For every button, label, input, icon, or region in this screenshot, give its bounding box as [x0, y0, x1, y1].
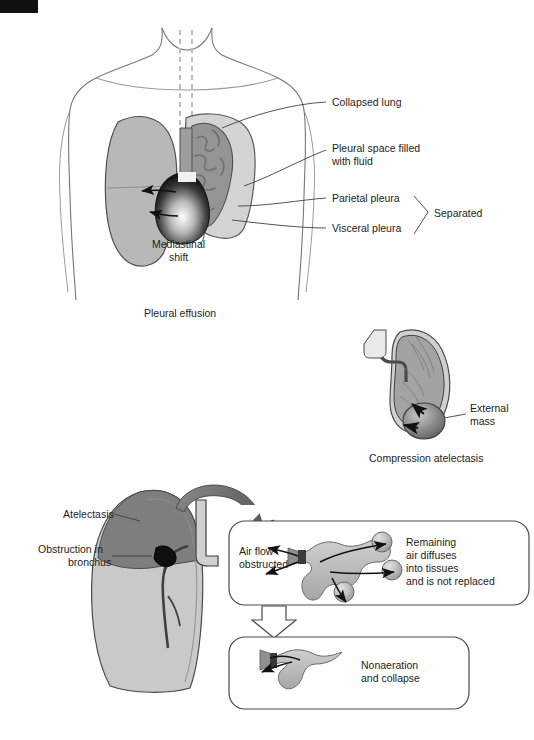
carina-highlight	[178, 172, 196, 182]
heart-mediastinum	[155, 173, 209, 244]
label-external-mass-line2: mass	[470, 415, 495, 428]
label-atelectasis: Atelectasis	[63, 508, 114, 521]
illustration-page: Collapsed lung Pleural space filled with…	[0, 0, 534, 740]
neck-base	[162, 28, 212, 50]
callout-remaining-line4: and is not replaced	[406, 575, 495, 588]
label-pleural-space-line1: Pleural space filled	[332, 142, 420, 155]
callout-remaining-line3: into tissues	[406, 562, 459, 575]
main-bronchus-stub	[180, 128, 192, 176]
label-pleural-space-line2: with fluid	[332, 155, 373, 168]
callout-airflow-line2: obstructed	[239, 558, 288, 571]
label-obstruction-line1: Obstruction in	[38, 543, 103, 556]
external-mass	[403, 403, 445, 439]
nonaeration-callout-box	[229, 637, 469, 709]
diagram-canvas	[0, 0, 534, 740]
label-external-mass-line1: External	[470, 402, 509, 415]
trachea-dashed	[180, 30, 192, 130]
label-obstruction-line2: bronchus	[68, 556, 111, 569]
callout-nonaeration-line2: and collapse	[361, 672, 420, 685]
callout-remaining-line1: Remaining	[406, 536, 456, 549]
callout-nonaeration-line1: Nonaeration	[361, 659, 418, 672]
label-mediastinal-shift-line2: shift	[169, 251, 188, 264]
caption-compression-atelectasis: Compression atelectasis	[369, 452, 483, 465]
corner-black-mark	[0, 0, 38, 13]
compression-atelectasis-illustration	[364, 330, 466, 439]
obstruction-atelectasis-illustration	[92, 485, 529, 709]
caption-pleural-effusion: Pleural effusion	[144, 307, 216, 320]
label-collapsed-lung: Collapsed lung	[332, 96, 401, 109]
label-parietal-pleura: Parietal pleura	[332, 192, 400, 205]
between-boxes-arrow	[252, 606, 296, 638]
clavicle-line	[96, 78, 278, 90]
leader-external-mass	[444, 414, 466, 418]
label-separated: Separated	[434, 207, 482, 220]
callout-airflow-line1: Air flow	[239, 545, 273, 558]
leader-pleural-space	[244, 150, 326, 186]
separated-brace	[414, 196, 428, 234]
label-mediastinal-shift-line1: Mediastinal	[152, 238, 205, 251]
label-visceral-pleura: Visceral pleura	[332, 222, 401, 235]
callout-remaining-line2: air diffuses	[406, 549, 457, 562]
